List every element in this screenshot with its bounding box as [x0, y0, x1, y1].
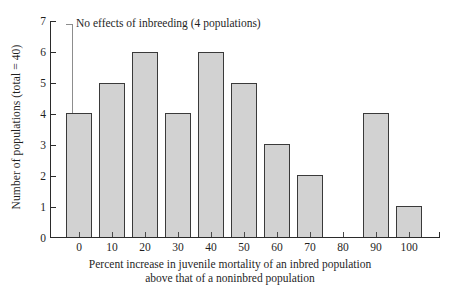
x-tick-mark-0 [79, 232, 80, 237]
x-tick-mark-30 [178, 232, 179, 237]
annotation-label: No effects of inbreeding (4 populations) [76, 17, 261, 30]
x-axis-caption-line-1: Percent increase in juvenile mortality o… [40, 258, 420, 272]
x-axis-caption: Percent increase in juvenile mortality o… [40, 258, 420, 285]
bar-90 [363, 113, 389, 236]
y-tick-mark-2 [51, 176, 56, 177]
bar-20 [132, 52, 158, 237]
y-axis-top-cap [51, 21, 56, 22]
bar-40 [198, 52, 224, 237]
x-tick-mark-10 [112, 232, 113, 237]
y-tick-label-3: 3 [32, 140, 46, 152]
y-axis-label: Number of populations (total = 40) [10, 12, 28, 242]
histogram-chart: Number of populations (total = 40) 7 6 5… [0, 0, 453, 299]
bar-10 [99, 83, 125, 237]
y-tick-label-4: 4 [32, 109, 46, 121]
x-axis-right-cap [439, 232, 440, 237]
bar-60 [264, 144, 290, 236]
x-tick-label-100: 100 [389, 241, 429, 253]
annotation-leader-line [72, 24, 73, 113]
y-tick-mark-6 [51, 52, 56, 53]
y-tick-mark-3 [51, 145, 56, 146]
y-tick-label-0: 0 [32, 233, 46, 245]
bar-70 [297, 175, 323, 237]
bar-0 [66, 113, 92, 236]
y-axis-line [50, 21, 51, 238]
y-tick-label-1: 1 [32, 202, 46, 214]
bar-30 [165, 113, 191, 236]
y-tick-label-2: 2 [32, 171, 46, 183]
y-tick-label-5: 5 [32, 78, 46, 90]
x-tick-mark-40 [211, 232, 212, 237]
x-tick-mark-70 [310, 232, 311, 237]
x-tick-mark-50 [244, 232, 245, 237]
y-tick-mark-1 [51, 207, 56, 208]
y-tick-mark-4 [51, 114, 56, 115]
x-tick-mark-100 [409, 232, 410, 237]
y-tick-label-7: 7 [32, 16, 46, 28]
x-tick-mark-80 [343, 232, 344, 237]
x-tick-mark-90 [376, 232, 377, 237]
x-tick-mark-20 [145, 232, 146, 237]
y-tick-label-6: 6 [32, 47, 46, 59]
x-tick-mark-60 [277, 232, 278, 237]
bar-50 [231, 83, 257, 237]
x-axis-caption-line-2: above that of a noninbred population [40, 272, 420, 286]
y-tick-mark-5 [51, 83, 56, 84]
x-axis-line [50, 237, 440, 238]
